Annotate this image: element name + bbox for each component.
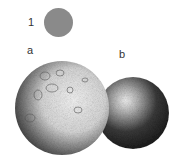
spheres-illustration <box>0 0 179 163</box>
sphere-a <box>15 61 109 155</box>
